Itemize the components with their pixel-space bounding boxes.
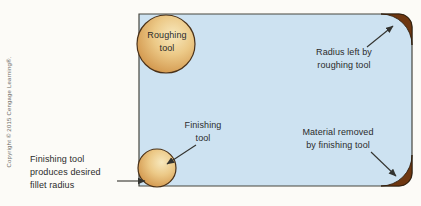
material-removed-label: Material removed by finishing tool	[273, 126, 403, 152]
radius-left-label: Radius left by roughing tool	[284, 46, 404, 72]
roughing-tool-label: Roughing tool	[127, 29, 207, 55]
machining-fillet-radius-diagram: Roughing tool Radius left by roughing to…	[0, 0, 421, 206]
finishing-tool-label: Finishing tool	[163, 119, 243, 145]
copyright-notice: Copyright © 2015 Cengage Learning®.	[6, 57, 12, 168]
fillet-note-label: Finishing tool produces desired fillet r…	[30, 153, 140, 192]
